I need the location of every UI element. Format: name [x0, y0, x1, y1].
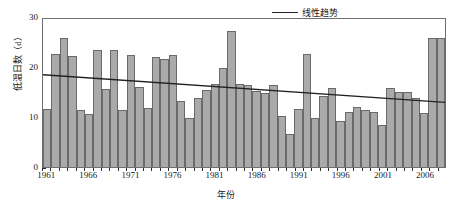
bar	[135, 87, 143, 168]
x-axis-tickmark	[160, 168, 161, 171]
bar	[361, 110, 369, 167]
bar	[420, 113, 428, 167]
x-axis-tick-labels: 1961196619711976198119861991199620012006	[42, 168, 446, 188]
bar	[177, 101, 185, 168]
x-axis-tickmark	[370, 168, 371, 171]
bar	[370, 112, 378, 168]
bar	[403, 92, 411, 167]
x-axis-tickmark	[328, 168, 329, 171]
x-axis-tickmark	[286, 168, 287, 171]
x-axis-tick-1986: 1986	[248, 170, 266, 180]
bar	[345, 112, 353, 168]
bar	[328, 88, 336, 167]
bar	[319, 96, 327, 167]
x-axis-tickmark	[320, 168, 321, 171]
bar	[286, 134, 294, 167]
x-axis-tickmark	[101, 168, 102, 171]
bar	[60, 38, 68, 168]
bar	[118, 110, 126, 167]
bar	[43, 109, 51, 168]
bar	[252, 91, 260, 168]
bar	[185, 118, 193, 168]
bar	[244, 85, 252, 167]
x-axis-tick-2001: 2001	[374, 170, 392, 180]
bar	[169, 55, 177, 168]
x-axis-tickmark	[311, 168, 312, 171]
bar	[77, 110, 85, 167]
x-axis-tick-1996: 1996	[332, 170, 350, 180]
bar	[127, 55, 135, 167]
bar	[194, 98, 202, 168]
bar	[68, 56, 76, 167]
x-axis-tickmark	[67, 168, 68, 171]
bar	[412, 98, 420, 167]
x-axis-tickmark	[236, 168, 237, 171]
bar	[152, 57, 160, 167]
y-axis-tick-20: 20	[16, 63, 38, 72]
x-axis-tickmark	[362, 168, 363, 171]
y-axis-tick-30: 30	[16, 13, 38, 22]
x-axis-tick-1976: 1976	[163, 170, 181, 180]
x-axis-tick-1971: 1971	[121, 170, 139, 180]
bar	[110, 50, 118, 167]
bar	[93, 50, 101, 168]
chart-figure: 低温日数（d） 0102030 线性趋势 1961196619711976198…	[0, 0, 451, 206]
bar	[336, 121, 344, 168]
bar	[278, 116, 286, 167]
bar	[269, 85, 277, 167]
bar	[144, 108, 152, 168]
x-axis-tickmark	[404, 168, 405, 171]
x-axis-tick-1991: 1991	[290, 170, 308, 180]
bar	[353, 107, 361, 168]
x-axis-tickmark	[185, 168, 186, 171]
x-axis-label: 年份	[0, 188, 451, 201]
bar	[227, 31, 235, 167]
bar-series	[43, 19, 445, 167]
x-axis-tickmark	[353, 168, 354, 171]
bar	[51, 54, 59, 167]
y-axis-tick-0: 0	[16, 163, 38, 172]
x-axis-tickmark	[118, 168, 119, 171]
x-axis-tickmark	[143, 168, 144, 171]
x-axis-tickmark	[109, 168, 110, 171]
x-axis-tick-1961: 1961	[37, 170, 55, 180]
bar	[311, 118, 319, 168]
bar	[85, 114, 93, 168]
bar	[102, 89, 110, 168]
x-axis-tickmark	[227, 168, 228, 171]
bar	[428, 38, 436, 168]
bar	[261, 93, 269, 168]
bar	[395, 92, 403, 168]
legend-line-swatch	[272, 12, 298, 13]
chart-legend: 线性趋势	[272, 6, 338, 19]
x-axis-tickmark	[59, 168, 60, 171]
y-axis-tick-labels: 0102030	[14, 0, 38, 206]
x-axis-tickmark	[202, 168, 203, 171]
x-axis-tickmark	[76, 168, 77, 171]
x-axis-tickmark	[269, 168, 270, 171]
x-axis-tickmark	[278, 168, 279, 171]
x-axis-tickmark	[412, 168, 413, 171]
x-axis-tickmark	[194, 168, 195, 171]
bar	[160, 59, 168, 167]
x-axis-tickmark	[438, 168, 439, 171]
bar	[437, 38, 445, 168]
y-axis-tick-10: 10	[16, 113, 38, 122]
bar	[236, 84, 244, 167]
plot-area	[42, 18, 446, 168]
bar	[294, 109, 302, 167]
x-axis-tick-1981: 1981	[206, 170, 224, 180]
x-axis-tickmark	[244, 168, 245, 171]
x-axis-tickmark	[151, 168, 152, 171]
bar	[211, 84, 219, 168]
x-axis-tick-2006: 2006	[416, 170, 434, 180]
bar	[202, 90, 210, 167]
bar	[386, 88, 394, 168]
x-axis-tickmark	[396, 168, 397, 171]
legend-label-trend: 线性趋势	[302, 6, 338, 19]
bar	[303, 54, 311, 167]
x-axis-tick-1966: 1966	[79, 170, 97, 180]
bar	[219, 68, 227, 167]
bar	[378, 125, 386, 167]
